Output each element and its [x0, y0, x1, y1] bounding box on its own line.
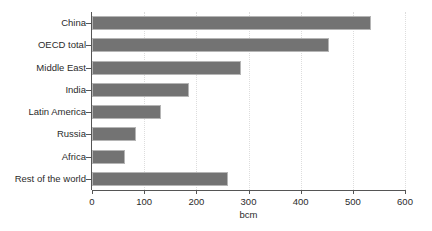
x-tick-100 — [144, 190, 145, 194]
y-tick-3 — [86, 90, 92, 91]
bar-rest-of-the-world — [92, 172, 228, 186]
x-tick-400 — [301, 190, 302, 194]
x-tick-0 — [92, 190, 93, 194]
x-axis-title-text: bcm — [240, 209, 258, 220]
bar-africa — [92, 150, 125, 164]
bar-row — [92, 79, 405, 101]
y-tick-7 — [86, 179, 92, 180]
bar-row — [92, 101, 405, 123]
x-tick-label-600: 600 — [397, 196, 413, 207]
x-tick-label-100: 100 — [136, 196, 152, 207]
bar-row — [92, 12, 405, 34]
y-tick-1 — [86, 45, 92, 46]
y-axis-label-africa: Africa — [2, 152, 86, 162]
bar-latin-america — [92, 105, 161, 119]
x-tick-200 — [196, 190, 197, 194]
y-tick-6 — [86, 157, 92, 158]
bar-row — [92, 146, 405, 168]
x-tick-label-200: 200 — [188, 196, 204, 207]
bar-row — [92, 123, 405, 145]
x-tick-label-0: 0 — [89, 196, 94, 207]
x-tick-label-400: 400 — [293, 196, 309, 207]
y-tick-0 — [86, 23, 92, 24]
y-axis-label-middle-east: Middle East — [2, 63, 86, 73]
bar-chart: ChinaOECD totalMiddle EastIndiaLatin Ame… — [0, 0, 432, 231]
y-axis-labels: ChinaOECD totalMiddle EastIndiaLatin Ame… — [0, 12, 86, 190]
bar-china — [92, 16, 371, 30]
x-tick-label-300: 300 — [241, 196, 257, 207]
y-axis-label-india: India — [2, 85, 86, 95]
x-tick-300 — [249, 190, 250, 194]
x-tick-500 — [353, 190, 354, 194]
gridline-600 — [405, 12, 406, 190]
bar-row — [92, 57, 405, 79]
bar-oecd-total — [92, 38, 329, 52]
x-tick-600 — [405, 190, 406, 194]
x-axis-title: bcm — [0, 209, 432, 220]
bar-india — [92, 83, 189, 97]
y-axis-label-rest-of-the-world: Rest of the world — [2, 174, 86, 184]
y-tick-5 — [86, 134, 92, 135]
y-axis-label-latin-america: Latin America — [2, 107, 86, 117]
bar-row — [92, 34, 405, 56]
x-tick-label-500: 500 — [345, 196, 361, 207]
y-axis-label-oecd-total: OECD total — [2, 40, 86, 50]
bar-row — [92, 168, 405, 190]
bar-middle-east — [92, 61, 241, 75]
y-tick-4 — [86, 112, 92, 113]
plot-area — [92, 12, 405, 190]
y-axis-line — [91, 12, 92, 190]
y-tick-2 — [86, 68, 92, 69]
y-axis-label-russia: Russia — [2, 129, 86, 139]
bar-russia — [92, 127, 136, 141]
y-axis-label-china: China — [2, 18, 86, 28]
